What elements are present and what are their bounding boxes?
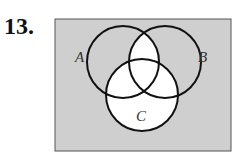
label-b: B bbox=[198, 49, 207, 65]
label-c: C bbox=[136, 108, 147, 124]
label-a: A bbox=[74, 49, 85, 65]
venn-diagram: A B C bbox=[0, 0, 239, 162]
